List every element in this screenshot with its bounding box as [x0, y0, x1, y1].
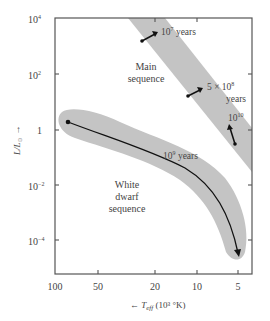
x-tick-labels: 100 50 20 10 5: [48, 281, 241, 292]
track-start-dot: [66, 120, 71, 125]
white-dwarf-label: White dwarf sequence: [109, 179, 146, 214]
hr-diagram: 104 102 1 10−2 10−4 100 50 20 10 5 L/L⊙→…: [0, 0, 270, 321]
svg-text:Main: Main: [135, 61, 156, 72]
x-axis-label: ← Teff (10³ °K): [130, 300, 186, 312]
svg-text:sequence: sequence: [128, 73, 165, 84]
svg-text:10: 10: [192, 281, 202, 292]
svg-text:50: 50: [93, 281, 103, 292]
svg-text:sequence: sequence: [109, 203, 146, 214]
svg-text:dwarf: dwarf: [115, 191, 139, 202]
y-axis-label: L/L⊙→: [12, 125, 23, 156]
svg-text:10−2: 10−2: [28, 181, 44, 192]
svg-text:1: 1: [37, 125, 42, 136]
annotation-1e7-years: 107 years: [161, 26, 196, 37]
annotation-5e8: 5 × 108: [207, 81, 234, 92]
annotation-1e9-years: 109 years: [163, 150, 198, 161]
annotation-5e8-years: years: [226, 94, 246, 104]
svg-text:White: White: [115, 179, 140, 190]
svg-text:10−4: 10−4: [28, 236, 44, 247]
y-tick-labels: 104 102 1 10−2 10−4: [28, 14, 44, 247]
svg-text:102: 102: [28, 70, 41, 81]
main-sequence-label: Main sequence: [128, 61, 165, 84]
svg-text:L/L⊙→: L/L⊙→: [12, 125, 23, 156]
svg-text:20: 20: [150, 281, 160, 292]
svg-text:5: 5: [236, 281, 241, 292]
svg-text:100: 100: [48, 281, 63, 292]
white-dwarf-band: [58, 109, 246, 259]
svg-text:104: 104: [28, 14, 41, 25]
